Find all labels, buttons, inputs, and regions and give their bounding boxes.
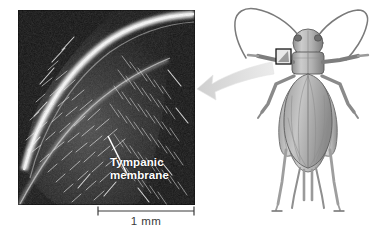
illustration-layer [0,0,371,242]
cricket-illustration [235,9,368,211]
cerci [292,168,324,208]
figure-root: Tympanic membrane 1 mm [0,0,371,242]
hind-tarsi [304,170,312,200]
tympanum-callout-box [276,49,291,64]
pronotum [292,52,324,74]
callout-arrow [197,62,274,100]
forewings [284,74,332,168]
